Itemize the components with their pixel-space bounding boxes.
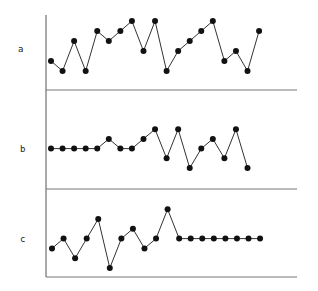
data-point [175,126,181,132]
data-point [83,146,89,152]
data-point [210,18,216,24]
data-point [233,126,239,132]
data-point [72,255,78,261]
data-point [246,236,252,242]
data-point [165,206,171,212]
data-point [256,28,262,34]
series-a [48,18,262,74]
data-point [71,146,77,152]
data-point [140,48,146,54]
data-point [152,126,158,132]
data-point [117,146,123,152]
data-point [245,165,251,171]
data-point [234,236,240,242]
panel-label-b: b [20,144,25,154]
data-point [129,18,135,24]
data-point [130,226,136,232]
data-point [245,68,251,74]
data-point [198,146,204,152]
data-point [187,38,193,44]
data-point [49,245,55,251]
data-point [152,18,158,24]
data-point [257,236,263,242]
stacked-line-chart [0,0,318,291]
series-line-a [51,21,259,71]
data-point [94,146,100,152]
data-point [175,48,181,54]
data-point [153,236,159,242]
data-point [60,146,66,152]
data-point [48,146,54,152]
data-point [221,155,227,161]
data-point [221,58,227,64]
data-point [48,58,54,64]
data-point [188,236,194,242]
data-point [60,68,66,74]
data-point [118,236,124,242]
data-point [129,146,135,152]
data-point [211,236,217,242]
data-point [140,136,146,142]
data-point [84,236,90,242]
series-b [48,126,251,171]
data-point [94,28,100,34]
series-c [49,206,263,271]
data-point [71,38,77,44]
data-point [117,28,123,34]
data-point [210,136,216,142]
data-point [83,68,89,74]
data-point [198,28,204,34]
data-point [199,236,205,242]
series-line-b [51,129,248,168]
data-point [176,236,182,242]
data-point [222,236,228,242]
data-point [187,165,193,171]
data-point [164,155,170,161]
data-point [95,216,101,222]
panel-label-c: c [20,234,25,244]
data-point [141,245,147,251]
data-point [106,38,112,44]
panel-label-a: a [18,44,23,54]
data-point [106,136,112,142]
data-point [107,265,113,271]
data-point [164,68,170,74]
data-point [61,236,67,242]
data-point [233,48,239,54]
